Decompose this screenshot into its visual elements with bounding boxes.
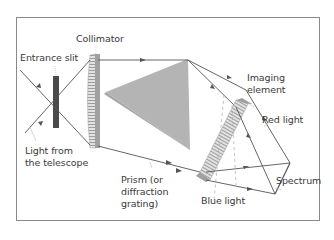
collimator-rim xyxy=(95,54,100,148)
label-imaging-2: element xyxy=(247,84,285,95)
label-prism-3: grating) xyxy=(121,198,158,209)
label-light-from-telescope-2: the telescope xyxy=(25,157,88,168)
label-collimator: Collimator xyxy=(76,33,124,44)
label-prism-2: diffraction xyxy=(121,186,168,197)
label-red-light: Red light xyxy=(262,114,303,125)
label-entrance-slit: Entrance slit xyxy=(20,52,78,63)
collimator-lens xyxy=(88,54,97,148)
label-light-from-telescope-1: Light from xyxy=(25,145,73,156)
label-spectrum: Spectrum xyxy=(276,175,321,186)
label-prism-1: Prism (or xyxy=(121,174,163,185)
label-blue-light: Blue light xyxy=(201,195,245,206)
entrance-slit xyxy=(53,76,59,128)
label-imaging-1: Imaging xyxy=(247,72,285,83)
